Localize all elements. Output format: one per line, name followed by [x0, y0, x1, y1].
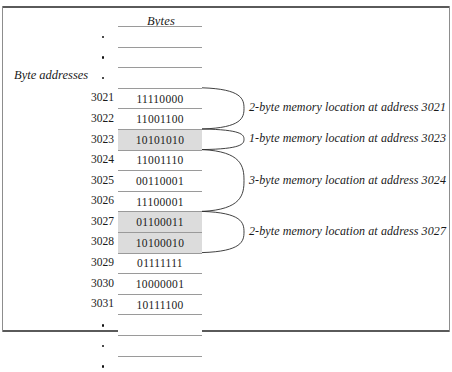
brace-curve — [202, 129, 244, 150]
brace-curve — [202, 211, 244, 252]
table-row: 303010000001 — [88, 273, 202, 294]
byte-value-cell: 10111100 — [118, 294, 202, 315]
byte-value-cell — [118, 314, 202, 335]
address-cell — [88, 51, 118, 63]
byte-value-cell: 10101010 — [118, 129, 202, 150]
brace-curve — [202, 88, 244, 129]
address-cell: 3031 — [88, 298, 118, 310]
figure-top-rule — [2, 6, 450, 8]
address-cell — [88, 360, 118, 372]
memory-table: 3021111100003022110011003023101010103024… — [88, 26, 202, 372]
ellipsis-dot — [102, 324, 105, 327]
table-ellipsis-row-bottom — [88, 335, 202, 356]
table-row: 302111110000 — [88, 88, 202, 109]
table-row: 302500110001 — [88, 170, 202, 191]
address-cell: 3021 — [88, 92, 118, 104]
table-row: 302310101010 — [88, 129, 202, 150]
address-cell: 3024 — [88, 154, 118, 166]
memory-location-annotation: 1-byte memory location at address 3023 — [249, 131, 446, 146]
byte-value-cell: 10100010 — [118, 232, 202, 253]
address-cell: 3027 — [88, 216, 118, 228]
byte-value-cell: 00110001 — [118, 170, 202, 191]
byte-value-cell — [118, 67, 202, 88]
figure-left-edge — [2, 6, 3, 332]
byte-value-cell: 11001100 — [118, 108, 202, 129]
figure-right-edge — [449, 6, 450, 332]
address-cell: 3025 — [88, 175, 118, 187]
table-row: 302901111111 — [88, 253, 202, 274]
address-cell: 3029 — [88, 257, 118, 269]
address-cell: 3028 — [88, 236, 118, 248]
memory-location-annotation: 3-byte memory location at address 3024 — [249, 173, 446, 188]
address-cell: 3030 — [88, 278, 118, 290]
brace-curve — [202, 150, 244, 212]
table-row: 302611100001 — [88, 191, 202, 212]
byte-value-cell: 01100011 — [118, 211, 202, 232]
memory-location-annotation: 2-byte memory location at address 3021 — [249, 100, 446, 115]
address-cell — [88, 319, 118, 331]
byte-value-cell — [118, 26, 202, 47]
ellipsis-dot — [102, 36, 105, 39]
table-ellipsis-row-top — [88, 67, 202, 88]
ellipsis-dot — [102, 77, 105, 80]
figure-bottom-rule — [2, 330, 450, 332]
address-cell: 3022 — [88, 113, 118, 125]
table-ellipsis-row-top — [88, 26, 202, 47]
memory-location-annotation: 2-byte memory location at address 3027 — [249, 224, 446, 239]
table-ellipsis-row-bottom — [88, 314, 202, 335]
table-row: 303110111100 — [88, 294, 202, 315]
byte-addresses-label: Byte addresses — [14, 68, 88, 83]
byte-value-cell: 11100001 — [118, 191, 202, 212]
ellipsis-dot — [102, 345, 105, 348]
byte-value-cell — [118, 356, 202, 372]
table-ellipsis-row-top — [88, 47, 202, 68]
table-row: 302701100011 — [88, 211, 202, 232]
ellipsis-dot — [102, 365, 105, 368]
byte-value-cell — [118, 335, 202, 356]
byte-value-cell — [118, 47, 202, 68]
byte-value-cell: 11001110 — [118, 150, 202, 171]
address-cell — [88, 339, 118, 351]
address-cell: 3023 — [88, 134, 118, 146]
address-cell: 3026 — [88, 195, 118, 207]
ellipsis-dot — [102, 56, 105, 59]
table-row: 302411001110 — [88, 150, 202, 171]
address-cell — [88, 72, 118, 84]
table-row: 302810100010 — [88, 232, 202, 253]
byte-value-cell: 01111111 — [118, 253, 202, 274]
byte-value-cell: 10000001 — [118, 273, 202, 294]
table-ellipsis-row-bottom — [88, 356, 202, 372]
table-row: 302211001100 — [88, 108, 202, 129]
address-cell — [88, 31, 118, 43]
byte-value-cell: 11110000 — [118, 88, 202, 109]
